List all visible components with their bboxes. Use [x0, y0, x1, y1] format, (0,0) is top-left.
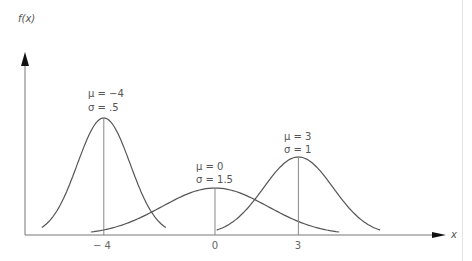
curve-label-sigma-15: σ = 1.5 [196, 174, 233, 186]
curve-label-mu-0: μ = 0 [196, 161, 223, 173]
y-axis-label: f(x) [18, 13, 35, 25]
curve-label-sigma-1: σ = 1 [284, 144, 311, 156]
y-axis-arrow-icon [21, 52, 29, 66]
page-edge-divider [462, 0, 463, 261]
curve-label-mu-3: μ = 3 [284, 131, 311, 143]
x-tick-3: 3 [295, 240, 301, 251]
chart-canvas [0, 0, 472, 261]
curve-label-mu-neg4: μ = −4 [88, 88, 124, 100]
x-tick-neg4: − 4 [93, 240, 111, 251]
x-axis-label: x [451, 229, 457, 241]
x-tick-0: 0 [212, 240, 218, 251]
x-axis-arrow-icon [432, 232, 446, 238]
curve-label-sigma-05: σ = .5 [88, 102, 119, 114]
